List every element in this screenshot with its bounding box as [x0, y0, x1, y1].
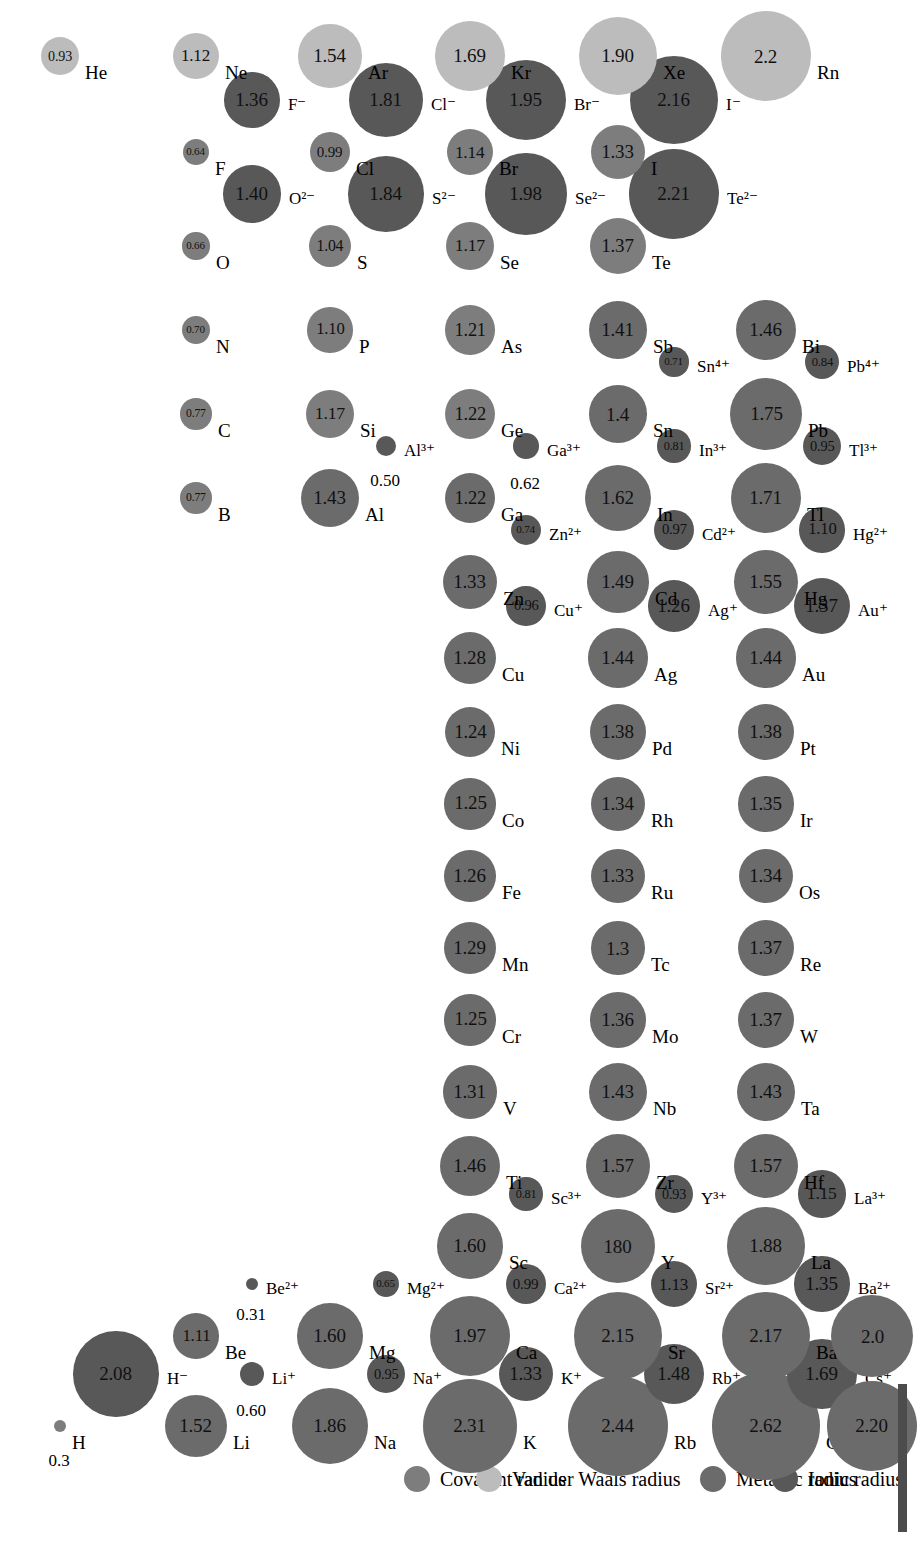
radius-value: 1.36 [236, 91, 268, 110]
radius-value: 1.25 [454, 1011, 486, 1030]
radius-bubble-Pt: 1.38 [738, 704, 795, 761]
radius-value: 1.31 [454, 1083, 486, 1102]
radius-bubble-Co: 1.25 [444, 778, 495, 829]
radius-value: 2.31 [454, 1417, 486, 1436]
element-symbol-Ni: Ni [501, 738, 520, 760]
radius-bubble-Ni: 1.24 [445, 707, 496, 758]
radius-value: 0.95 [374, 1367, 398, 1381]
radius-value: 0.71 [665, 357, 683, 368]
element-symbol-Cd: Cd²⁺ [702, 524, 736, 545]
element-symbol-F: F [215, 158, 226, 180]
radius-value: 1.33 [510, 1365, 542, 1384]
element-symbol-Ta: Ta [801, 1098, 820, 1120]
element-symbol-Ag: Ag [654, 664, 677, 686]
radius-value: 1.38 [750, 723, 782, 742]
radius-value: 1.43 [750, 1083, 782, 1102]
radius-value: 1.13 [659, 1275, 688, 1292]
radius-value: 1.33 [602, 867, 634, 886]
element-symbol-F: F⁻ [288, 94, 306, 115]
element-symbol-Hg: Hg [804, 588, 827, 610]
radius-bubble-Ne: 1.12 [173, 33, 219, 79]
radius-value: 1.22 [454, 405, 486, 424]
radius-value: 1.40 [236, 185, 268, 204]
element-symbol-Ne: Ne [225, 62, 247, 84]
radius-value: 1.43 [314, 489, 346, 508]
radius-value: 1.28 [454, 649, 486, 668]
figure-page: Metallic radiusIonic radiusCovalent radi… [0, 0, 918, 1544]
radius-value: 0.93 [48, 49, 72, 63]
legend-item-vdw: Van der Waals radius [476, 1466, 681, 1492]
radius-value: 2.62 [750, 1417, 782, 1436]
radius-value: 1.84 [370, 185, 402, 204]
radius-value: 1.88 [750, 1237, 782, 1256]
radius-bubble-Na: 1.86 [292, 1388, 368, 1464]
element-symbol-Hf: Hf [804, 1172, 824, 1194]
radius-bubble-Pd: 1.38 [590, 704, 647, 761]
radius-value: 2.21 [658, 185, 690, 204]
element-symbol-Os: Os [799, 882, 820, 904]
radius-bubble-Al: 1.43 [301, 469, 360, 528]
element-symbol-W: W [800, 1026, 818, 1048]
radius-bubble-Tc: 1.3 [591, 921, 644, 974]
element-symbol-Pd: Pd [652, 738, 672, 760]
radius-bubble-Mn: 1.29 [444, 922, 497, 975]
element-symbol-C: C [218, 420, 231, 442]
radius-bubble-Ca: 1.97 [430, 1296, 511, 1377]
radius-value: 1.41 [602, 321, 634, 340]
radius-value: 2.16 [658, 91, 690, 110]
radius-value: 1.44 [750, 649, 782, 668]
radius-bubble-Sn: 1.4 [589, 385, 646, 442]
radius-bubble-Ti: 1.46 [440, 1136, 500, 1196]
element-symbol-Ir: Ir [800, 810, 813, 832]
radius-value: 1.14 [455, 143, 484, 160]
element-symbol-Br: Br [499, 158, 518, 180]
radius-bubble-Sb: 1.41 [589, 301, 647, 359]
radius-value: 1.4 [606, 405, 629, 424]
radius-bubble-Rn: 2.2 [721, 11, 811, 101]
radius-value: 1.12 [182, 48, 211, 65]
radius-value: 0.65 [377, 1279, 395, 1290]
element-symbol-Li: Li⁺ [272, 1368, 296, 1389]
radius-bubble-Be [246, 1278, 259, 1291]
radius-bubble-Be: 1.11 [173, 1313, 219, 1359]
element-symbol-Y: Y [661, 1252, 675, 1274]
element-symbol-As: As [501, 336, 522, 358]
element-symbol-Te: Te [652, 252, 671, 274]
radius-value: 0.74 [517, 524, 536, 535]
radius-value: 1.10 [316, 322, 344, 339]
element-symbol-Mg: Mg [369, 1342, 395, 1364]
radius-bubble-H: 2.08 [73, 1331, 158, 1416]
radius-value: 1.17 [455, 237, 485, 255]
element-symbol-Al: Al³⁺ [404, 440, 435, 461]
radius-bubble-He: 0.93 [41, 37, 79, 75]
element-symbol-Te: Te²⁻ [727, 188, 758, 209]
radius-bubble-Fe: 1.26 [444, 850, 496, 902]
radius-value: 1.95 [510, 91, 542, 110]
element-symbol-Sr: Sr [668, 1342, 685, 1364]
radius-value: 2.15 [602, 1327, 634, 1346]
element-symbol-Xe: Xe [663, 62, 685, 84]
element-symbol-Ar: Ar [368, 62, 388, 84]
element-symbol-Li: Li [233, 1432, 250, 1454]
element-symbol-In: In³⁺ [699, 440, 727, 461]
radius-value: 0.31 [236, 1305, 266, 1325]
radius-bubble-Mg: 1.60 [297, 1303, 363, 1369]
element-symbol-H: H⁻ [167, 1368, 188, 1389]
periodic-radii-chart: Metallic radiusIonic radiusCovalent radi… [0, 0, 918, 1544]
radius-bubble-Se: 1.17 [446, 222, 494, 270]
radius-value: 1.48 [658, 1365, 690, 1384]
radius-value: 1.54 [314, 47, 346, 66]
element-symbol-Si: Si [360, 420, 376, 442]
element-symbol-I: I [651, 158, 657, 180]
radius-bubble-Hg: 1.55 [734, 550, 798, 614]
radius-value: 1.33 [454, 573, 486, 592]
radius-bubble-Ar: 1.54 [298, 24, 361, 87]
radius-bubble-S: 1.04 [309, 225, 352, 268]
radius-bubble-Ir: 1.35 [738, 776, 793, 831]
radius-bubble-Rh: 1.34 [591, 777, 646, 832]
element-symbol-Rn: Rn [817, 62, 839, 84]
element-symbol-Ge: Ge [501, 420, 523, 442]
element-symbol-Al: Al [365, 504, 384, 526]
radius-value: 1.57 [602, 1157, 634, 1176]
radius-value: 1.34 [750, 867, 782, 886]
